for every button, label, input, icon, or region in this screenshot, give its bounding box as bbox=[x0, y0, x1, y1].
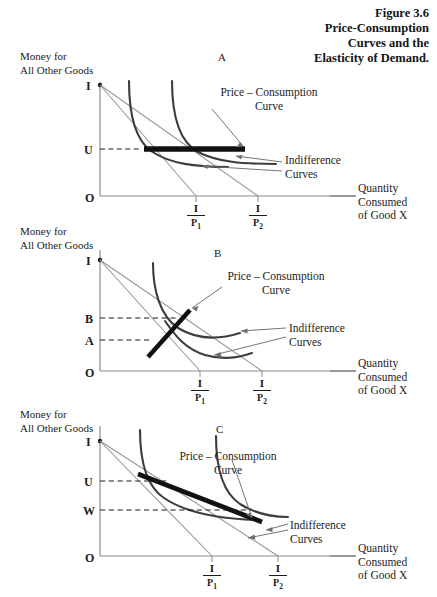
tick-numerator: I bbox=[265, 563, 291, 575]
panel-c-letter: C bbox=[216, 423, 223, 436]
y-axis-title-line-1: Money for bbox=[20, 225, 67, 237]
x-axis-title-line-2: Consumed bbox=[358, 371, 407, 383]
y-tick-label-i: I bbox=[86, 435, 91, 449]
tick-numerator: I bbox=[245, 203, 271, 215]
origin-label: O bbox=[85, 551, 94, 565]
indifference-label-line-2: Curves bbox=[285, 168, 318, 180]
pcc-label-line-2: Curve bbox=[214, 464, 242, 476]
panel-c-x-axis-title: Quantity Consumed of Good X bbox=[358, 542, 407, 583]
y-tick-label-i: I bbox=[86, 79, 91, 93]
figure-title-line-1: Price-Consumption bbox=[229, 21, 429, 36]
panel-c-x-tick-2: I P2 bbox=[265, 563, 291, 592]
tick-denominator: P2 bbox=[265, 576, 291, 592]
price-consumption-curve bbox=[148, 310, 190, 357]
x-axis-title-line-3: of Good X bbox=[358, 384, 407, 396]
leader-ind-1 bbox=[241, 328, 286, 331]
pcc-label-line-1: Price – Consumption bbox=[220, 86, 317, 98]
panel-b-pcc-label: Price – Consumption Curve bbox=[218, 269, 334, 297]
x-axis-title-line-1: Quantity bbox=[358, 542, 398, 554]
budget-line-1 bbox=[100, 85, 196, 196]
x-axis-title-line-3: of Good X bbox=[358, 569, 407, 581]
leader-pcc bbox=[212, 109, 243, 146]
indifference-label-line-2: Curves bbox=[290, 533, 323, 545]
panel-a-letter: A bbox=[218, 51, 226, 64]
y-tick-label-i: I bbox=[86, 254, 91, 268]
leader-ind-1 bbox=[236, 156, 282, 162]
indifference-label-line-1: Indifference bbox=[289, 322, 345, 334]
tick-denominator: P1 bbox=[199, 576, 225, 592]
pcc-label-line-2: Curve bbox=[262, 284, 290, 296]
panel-b-indifference-label: Indifference Curves bbox=[289, 321, 345, 349]
panel-a-x-axis-title: Quantity Consumed of Good X bbox=[358, 182, 407, 223]
pcc-label-line-1: Price – Consumption bbox=[179, 450, 276, 462]
origin-label: O bbox=[85, 366, 94, 380]
leader-ind-1-arrowhead bbox=[241, 329, 248, 334]
panel-c-pcc-label: Price – Consumption Curve bbox=[170, 449, 286, 477]
x-axis-title-line-1: Quantity bbox=[358, 182, 398, 194]
origin-label: O bbox=[85, 191, 94, 205]
panel-a-pcc-label: Price – Consumption Curve bbox=[211, 85, 327, 113]
y-axis-title-line-1: Money for bbox=[20, 50, 67, 62]
figure-container: Figure 3.6 Price-Consumption Curves and … bbox=[0, 0, 437, 597]
panel-a: I U O Money for All Other Goods A Price … bbox=[0, 52, 437, 234]
y-tick-label-a: A bbox=[85, 334, 94, 348]
y-tick-label-u: U bbox=[84, 475, 93, 489]
indifference-label-line-2: Curves bbox=[289, 336, 322, 348]
y-axis-title-line-1: Money for bbox=[20, 408, 67, 420]
leader-ind-2 bbox=[202, 166, 282, 171]
pcc-label-line-1: Price – Consumption bbox=[227, 270, 324, 282]
y-axis-title: Money for All Other Goods bbox=[20, 225, 93, 252]
tick-numerator: I bbox=[199, 563, 225, 575]
panel-b: I B A O Money for All Other Goods B Pric… bbox=[0, 225, 437, 395]
x-axis-title-line-3: of Good X bbox=[358, 209, 407, 221]
y-axis-title: Money for All Other Goods bbox=[20, 50, 93, 77]
panel-c: I U W O Money for All Other Goods C Pric… bbox=[0, 398, 437, 597]
panel-a-indifference-label: Indifference Curves bbox=[285, 153, 341, 181]
y-axis-title-line-2: All Other Goods bbox=[20, 64, 93, 76]
indifference-label-line-1: Indifference bbox=[290, 519, 346, 531]
y-axis-title: Money for All Other Goods bbox=[20, 408, 93, 435]
tick-numerator: I bbox=[187, 378, 213, 390]
panel-c-indifference-label: Indifference Curves bbox=[290, 518, 346, 546]
x-axis-title-line-1: Quantity bbox=[358, 357, 398, 369]
panel-c-x-tick-1: I P1 bbox=[199, 563, 225, 592]
x-axis-title-line-2: Consumed bbox=[358, 196, 407, 208]
figure-number: Figure 3.6 bbox=[229, 6, 429, 21]
x-axis-title-line-2: Consumed bbox=[358, 556, 407, 568]
panel-b-x-axis-title: Quantity Consumed of Good X bbox=[358, 357, 407, 398]
tick-numerator: I bbox=[183, 203, 209, 215]
y-axis-title-line-2: All Other Goods bbox=[20, 239, 93, 251]
y-tick-label-b: B bbox=[85, 312, 93, 326]
panel-b-letter: B bbox=[214, 247, 221, 260]
y-tick-label-w: W bbox=[83, 504, 95, 518]
pcc-label-line-2: Curve bbox=[255, 100, 283, 112]
y-tick-label-u: U bbox=[84, 143, 93, 157]
tick-numerator: I bbox=[249, 378, 275, 390]
figure-title-line-2: Curves and the bbox=[229, 36, 429, 51]
y-axis-title-line-2: All Other Goods bbox=[20, 422, 93, 434]
indifference-label-line-1: Indifference bbox=[285, 154, 341, 166]
